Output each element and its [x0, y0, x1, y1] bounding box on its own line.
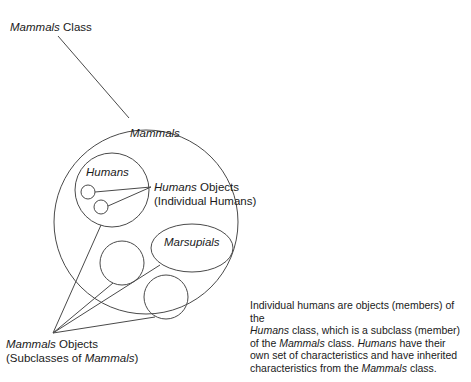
figure-canvas: Mammals Class Mammals Humans Marsupials …: [0, 0, 471, 382]
label-mammals-objects-line2-pre: (Subclasses of: [6, 352, 85, 364]
label-mammals-objects-line2: (Subclasses of Mammals): [6, 351, 138, 365]
cropped-caption-strip: [0, 372, 471, 382]
paragraph-line-2-rest: class, which is a subclass (member): [289, 324, 460, 336]
paragraph-line-3-post: have their: [397, 337, 446, 349]
leader-mammals-class: [58, 36, 129, 118]
paragraph-line-3: of the Mammals class. Humans have their: [250, 337, 466, 350]
label-mammals-objects-emphasis: Mammals: [6, 338, 56, 350]
label-mammals-objects-line2-post: ): [134, 352, 138, 364]
explanatory-paragraph: Individual humans are objects (members) …: [250, 299, 466, 375]
label-humans-objects: Humans Objects (Individual Humans): [154, 180, 256, 208]
paragraph-line-1: Individual humans are objects (members) …: [250, 299, 466, 324]
label-marsupials: Marsupials: [164, 235, 220, 249]
leader-mammals-object-circle2: [53, 317, 155, 333]
paragraph-line-3-emphasis-1: Mammals: [279, 337, 325, 349]
mammals-class-circle: [54, 130, 238, 314]
label-mammals-class-emphasis: Mammals: [10, 21, 60, 33]
leader-mammals-object-humans: [53, 225, 101, 333]
label-mammals-class: Mammals Class: [10, 20, 92, 34]
label-mammals-class-rest: Class: [60, 21, 92, 33]
human-object-circle-2: [94, 200, 108, 214]
human-object-circle-1: [81, 185, 95, 199]
paragraph-line-4: own set of characteristics and have inhe…: [250, 349, 466, 362]
label-humans-objects-line1: Humans Objects: [154, 180, 256, 194]
label-mammals-objects-rest: Objects: [56, 338, 98, 350]
label-humans-objects-rest: Objects: [197, 181, 239, 193]
label-humans: Humans: [86, 165, 129, 179]
label-mammals: Mammals: [130, 126, 180, 140]
paragraph-line-2-emphasis: Humans: [250, 324, 289, 336]
label-humans-objects-emphasis: Humans: [154, 181, 197, 193]
label-humans-objects-line2: (Individual Humans): [154, 194, 256, 208]
label-mammals-objects: Mammals Objects (Subclasses of Mammals): [6, 337, 138, 365]
paragraph-line-2: Humans class, which is a subclass (membe…: [250, 324, 466, 337]
paragraph-line-3-emphasis-2: Humans: [357, 337, 396, 349]
paragraph-line-3-mid: class.: [325, 337, 358, 349]
mammals-object-circle-2: [144, 275, 188, 319]
paragraph-line-3-pre: of the: [250, 337, 279, 349]
label-mammals-objects-line2-emphasis: Mammals: [85, 352, 135, 364]
mammals-object-circle-1: [100, 241, 144, 285]
label-mammals-objects-line1: Mammals Objects: [6, 337, 138, 351]
